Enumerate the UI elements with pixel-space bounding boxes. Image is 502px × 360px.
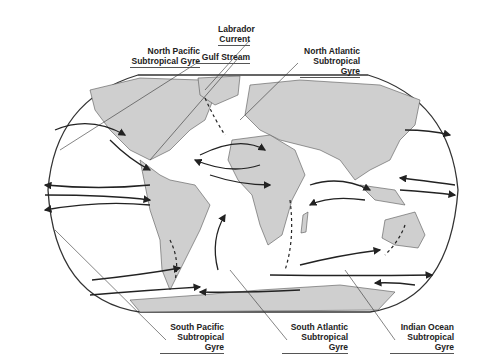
label-line: Subtropical Gyre xyxy=(160,332,224,352)
label-line: Gulf Stream xyxy=(196,52,250,62)
label-line: South Atlantic xyxy=(282,322,348,332)
label-north-pacific-gyre: North Pacific Subtropical Gyre xyxy=(130,46,200,68)
label-line: Current xyxy=(218,34,250,44)
label-north-atlantic-gyre: North Atlantic Subtropical Gyre xyxy=(300,46,360,78)
label-line: Subtropical Gyre xyxy=(300,56,360,76)
label-line: Indian Ocean xyxy=(390,322,454,332)
label-line: Labrador xyxy=(218,24,250,34)
label-line: Subtropical Gyre xyxy=(282,332,348,352)
label-line: North Atlantic xyxy=(300,46,360,56)
label-line: North Pacific xyxy=(130,46,200,56)
label-line: Subtropical Gyre xyxy=(130,56,200,66)
label-gulf-stream: Gulf Stream xyxy=(196,52,250,64)
label-south-atlantic-gyre: South Atlantic Subtropical Gyre xyxy=(282,322,348,354)
label-indian-ocean-gyre: Indian Ocean Subtropical Gyre xyxy=(390,322,454,354)
label-line: South Pacific xyxy=(160,322,224,332)
world-map xyxy=(0,0,502,360)
label-south-pacific-gyre: South Pacific Subtropical Gyre xyxy=(160,322,224,354)
label-line: Subtropical Gyre xyxy=(390,332,454,352)
label-labrador-current: Labrador Current xyxy=(218,24,250,46)
